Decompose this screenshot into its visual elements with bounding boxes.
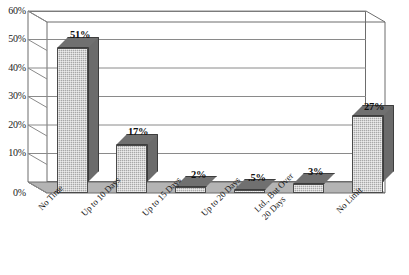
y-tick-label-0: 0% — [0, 188, 26, 198]
data-label-up-to-20-days: .5% — [248, 172, 266, 183]
data-label-up-to-10-days: 17% — [128, 126, 148, 137]
y-tick-label-60: 60% — [0, 6, 26, 16]
y-tick-label-40: 40% — [0, 63, 26, 73]
chart-container: 60% 50% 40% 30% 20% 10% 0% — [0, 0, 409, 275]
bar-up-to-15-days[interactable] — [175, 0, 225, 193]
bar-front-face — [352, 116, 383, 193]
data-label-ltd-but-over: 3% — [308, 166, 323, 177]
bar-front-face — [234, 190, 265, 193]
bar-front-face — [116, 145, 147, 193]
bar-front-face — [175, 187, 206, 193]
x-label-no-time: No Time — [36, 183, 65, 212]
data-label-up-to-15-days: 2% — [191, 169, 206, 180]
bar-up-to-10-days[interactable] — [116, 0, 166, 193]
y-tick-label-20: 20% — [0, 120, 26, 130]
bar-side-face — [88, 37, 99, 182]
bar-ltd-but-over-20-days[interactable] — [293, 0, 343, 193]
bar-front-face — [57, 48, 88, 193]
bar-side-face — [383, 105, 394, 182]
data-label-no-limit: 27% — [364, 101, 384, 112]
y-tick-label-10: 10% — [0, 148, 26, 158]
y-tick-label-30: 30% — [0, 91, 26, 101]
y-tick-label-50: 50% — [0, 34, 26, 44]
data-label-no-time: 51% — [70, 29, 90, 40]
bar-up-to-20-days[interactable] — [234, 0, 284, 193]
bar-no-limit[interactable] — [352, 0, 402, 193]
